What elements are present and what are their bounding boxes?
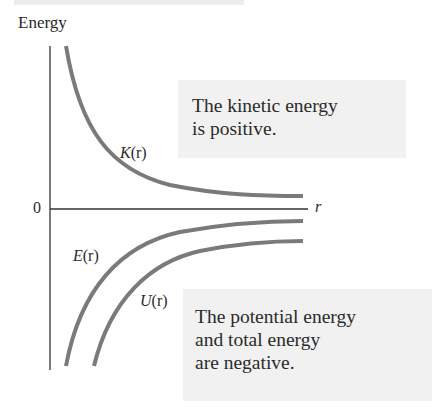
annotation-line: are negative.	[195, 351, 432, 374]
kinetic-energy-label: K(r)	[120, 144, 147, 162]
total-energy-label: E(r)	[73, 247, 99, 265]
kinetic-energy-annotation: The kinetic energy is positive.	[178, 80, 406, 158]
x-axis-label: r	[315, 198, 321, 216]
annotation-line: is positive.	[192, 117, 406, 140]
origin-label: 0	[33, 199, 41, 217]
annotation-line: and total energy	[195, 328, 432, 351]
negative-energy-annotation: The potential energy and total energy ar…	[183, 289, 432, 401]
potential-energy-label: U(r)	[140, 292, 168, 310]
annotation-line: The potential energy	[195, 305, 432, 328]
y-axis-label: Energy	[18, 13, 67, 33]
annotation-line: The kinetic energy	[192, 94, 406, 117]
